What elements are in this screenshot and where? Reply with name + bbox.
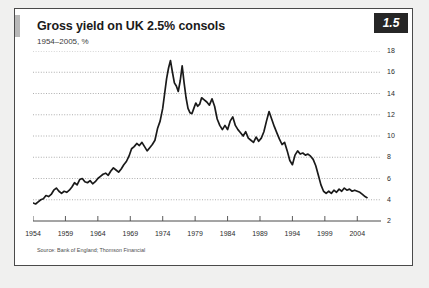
x-axis-tick-label: 1969 [122,230,138,237]
y-axis-tick-label: 16 [387,68,395,75]
title-accent-bar [15,15,20,37]
y-axis-tick-label: 10 [387,132,395,139]
plot-area: 2468101214161819541959196419691974197919… [33,51,395,231]
x-axis-tick-label: 1989 [252,230,268,237]
x-axis-tick-label: 1954 [25,230,41,237]
chart-canvas [33,51,395,231]
y-axis-tick-label: 2 [387,217,391,224]
y-axis-tick-label: 18 [387,47,395,54]
x-axis-tick-label: 1984 [220,230,236,237]
y-axis-tick-label: 12 [387,111,395,118]
chart-source: Source: Bank of England; Thomson Financi… [37,247,145,253]
chart-title: Gross yield on UK 2.5% consols [37,19,225,33]
x-axis-tick-label: 1959 [58,230,74,237]
figure-panel: Gross yield on UK 2.5% consols 1954–2005… [14,8,413,266]
figure-number-badge: 1.5 [374,13,408,33]
x-axis-tick-label: 1994 [285,230,301,237]
x-axis-tick-label: 1979 [187,230,203,237]
y-axis-tick-label: 4 [387,196,391,203]
x-axis-tick-label: 1974 [155,230,171,237]
x-axis-tick-label: 1964 [90,230,106,237]
x-axis-tick-label: 2004 [349,230,365,237]
figure-root: Gross yield on UK 2.5% consols 1954–2005… [0,0,429,288]
y-axis-tick-label: 8 [387,153,391,160]
chart-subtitle: 1954–2005, % [37,37,89,46]
x-axis-tick-label: 1999 [317,230,333,237]
y-axis-tick-label: 6 [387,175,391,182]
y-axis-tick-label: 14 [387,90,395,97]
